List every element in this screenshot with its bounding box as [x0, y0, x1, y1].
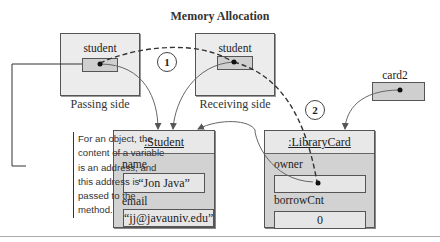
bottom-rule	[0, 236, 440, 237]
passing-to-student-arrow	[100, 64, 158, 129]
note-bracket-line	[12, 64, 82, 166]
passing-address-dot	[98, 62, 103, 67]
explanation-note: For an object, the content of a variable…	[73, 132, 168, 218]
owner-to-student-arrow	[198, 122, 313, 182]
receiving-to-student-arrow	[173, 62, 234, 129]
receiving-address-dot	[232, 60, 237, 65]
card2-address-dot	[398, 88, 403, 93]
owner-address-dot	[316, 181, 321, 186]
step-2-badge: 2	[305, 100, 325, 120]
connector-overlay	[0, 0, 440, 242]
card2-to-librarycard-arrow	[345, 90, 400, 129]
step2-dashed-curve	[234, 62, 317, 182]
step-1-badge: 1	[157, 52, 177, 72]
